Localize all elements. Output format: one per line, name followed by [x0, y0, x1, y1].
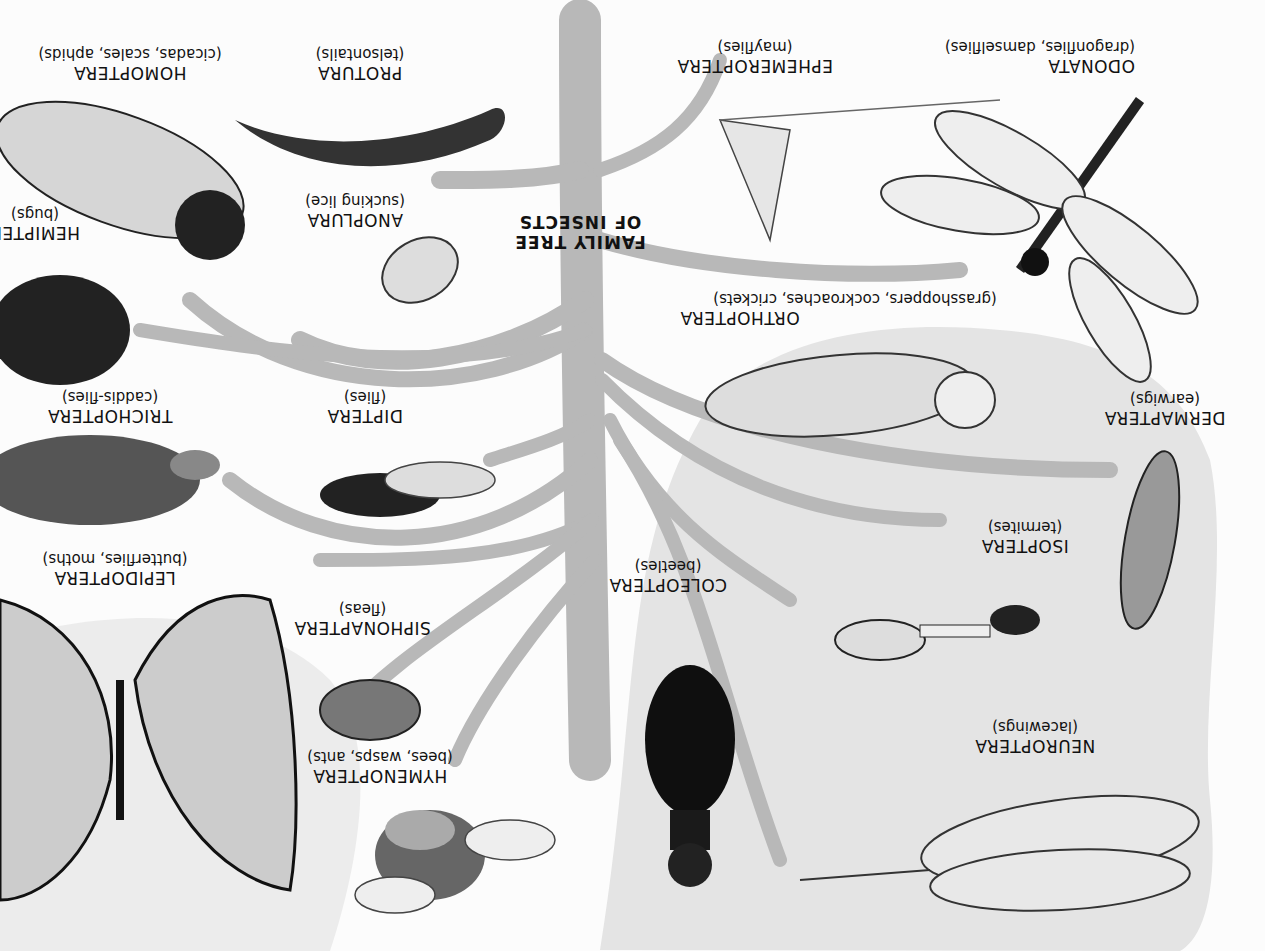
- label-coleoptera: COLEOPTERA (beetles): [598, 557, 738, 594]
- label-anoplura: ANOPLURA (sucking lice): [285, 192, 425, 229]
- label-diptera: DIPTERA (flies): [320, 388, 410, 425]
- bee-icon: [355, 810, 555, 913]
- dragonfly-icon: [877, 93, 1213, 392]
- caddisfly-case-icon: [0, 435, 220, 525]
- fly-icon: [320, 462, 495, 517]
- butterfly-icon: [0, 596, 296, 900]
- earwig-icon: [1110, 447, 1190, 633]
- label-lepidoptera: LEPIDOPTERA (butterflies, moths): [10, 550, 220, 587]
- insect-illustrations: [0, 0, 1265, 951]
- insect-family-tree-illustration: FAMILY TREE OF INSECTS HOMOPTERA (cicada…: [0, 0, 1265, 951]
- page-title: FAMILY TREE OF INSECTS: [500, 212, 660, 251]
- grasshopper-icon: [702, 343, 995, 446]
- stinkbug-icon: [0, 275, 130, 385]
- flea-icon: [320, 680, 420, 740]
- label-trichoptera: TRICHOPTERA (caddis-flies): [20, 388, 200, 425]
- label-siphonaptera: SIPHONAPTERA (fleas): [280, 600, 445, 637]
- louse-icon: [370, 224, 469, 316]
- label-neuroptera: NEUROPTERA (lacewings): [965, 718, 1105, 755]
- label-dermaptera: DERMAPTERA (earwigs): [1095, 390, 1235, 427]
- telsontail-icon: [235, 108, 505, 166]
- label-orthoptera: ORTHOPTERA (grasshoppers, cockroaches, c…: [680, 290, 1030, 327]
- label-odonata: ODONATA (dragonflies, damselflies): [1015, 38, 1135, 75]
- label-hemiptera: HEMIPTERA (bugs): [0, 205, 80, 242]
- beetle-icon: [645, 665, 735, 887]
- lacewing-icon: [800, 781, 1204, 917]
- label-ephemeroptera: EPHEMEROPTERA (mayflies): [665, 38, 845, 75]
- label-hymenoptera: HYMENOPTERA (bees, wasps, ants): [285, 748, 475, 785]
- label-protura: PROTURA (telsontails): [300, 45, 420, 82]
- label-isoptera: ISOPTERA (termites): [970, 518, 1080, 555]
- label-homoptera: HOMOPTERA (cicadas, scales, aphids): [10, 45, 250, 82]
- termite-icon: [835, 605, 1040, 660]
